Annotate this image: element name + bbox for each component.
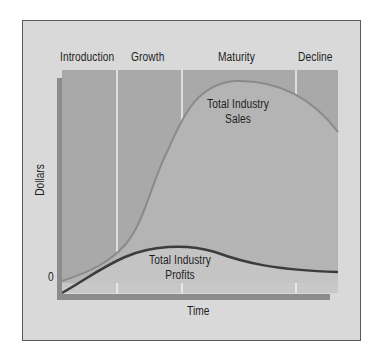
- sales-label-line2: Sales: [207, 112, 269, 127]
- stage-label-introduction: Introduction: [60, 50, 114, 64]
- profits-label-line2: Profits: [149, 268, 211, 283]
- stage-label-maturity: Maturity: [218, 50, 255, 64]
- profits-label: Total Industry Profits: [149, 253, 211, 283]
- sales-label: Total Industry Sales: [207, 97, 269, 127]
- x-axis-bar: [57, 294, 330, 300]
- y-axis-bar: [57, 78, 62, 300]
- zero-tick-label: 0: [48, 270, 54, 284]
- profits-label-line1: Total Industry: [149, 253, 211, 268]
- stage-label-growth: Growth: [131, 50, 164, 64]
- y-axis-label: Dollars: [33, 164, 47, 196]
- stage-label-decline: Decline: [298, 50, 333, 64]
- x-axis-label: Time: [187, 304, 210, 318]
- sales-label-line1: Total Industry: [207, 97, 269, 112]
